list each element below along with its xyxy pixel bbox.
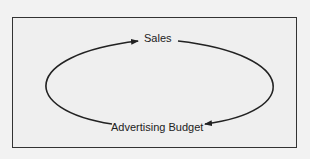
node-advertising-budget: Advertising Budget: [111, 121, 203, 133]
feedback-loop-arrows: [0, 0, 310, 159]
node-sales: Sales: [144, 32, 172, 44]
arrow-budget-to-sales: [46, 41, 138, 124]
arrow-sales-to-budget: [178, 41, 273, 124]
